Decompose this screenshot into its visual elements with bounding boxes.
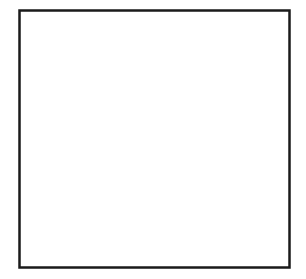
plot-frame	[20, 11, 290, 268]
coordinate-plane	[0, 0, 306, 279]
